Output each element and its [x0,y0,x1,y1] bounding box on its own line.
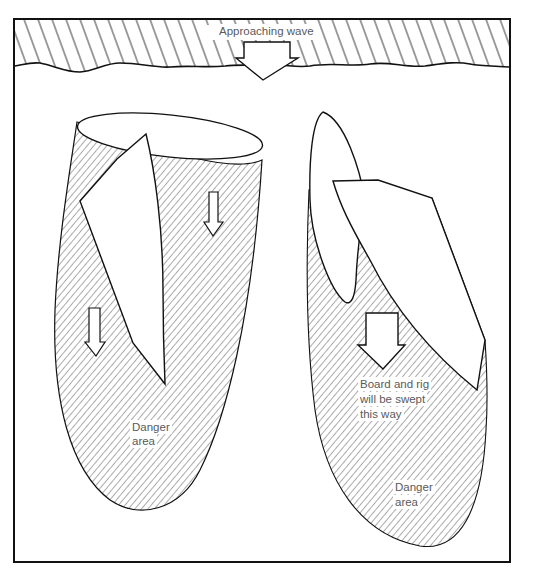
sweep-label-line2: will be swept [358,392,427,406]
wave-label: Approaching wave [217,24,316,38]
diagram-canvas: Approaching wave Danger area Board and r… [0,0,534,574]
left-danger-label-line1: Danger [130,420,172,434]
sweep-label-line3: this way [358,407,404,421]
left-danger-label-line2: area [130,434,157,448]
right-danger-label-line1: Danger [393,480,435,494]
right-danger-label-line2: area [393,495,420,509]
sweep-label-line1: Board and rig [358,377,431,391]
